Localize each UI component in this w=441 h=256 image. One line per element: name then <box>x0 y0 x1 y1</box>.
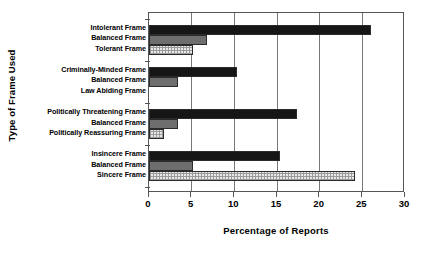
category-label: Balanced Frame <box>91 119 146 127</box>
category-label: Intolerant Frame <box>90 24 146 32</box>
gridline <box>234 13 235 191</box>
bar <box>149 25 371 35</box>
gridline <box>362 13 363 191</box>
x-axis-tick <box>190 192 191 197</box>
y-axis-tick <box>145 61 150 62</box>
category-label: Politically Threatening Frame <box>47 108 146 116</box>
x-axis-tick-label: 5 <box>176 198 206 209</box>
x-axis-tick-label: 0 <box>133 198 163 209</box>
bar <box>149 171 355 181</box>
bar <box>149 45 193 55</box>
y-axis-tick <box>145 103 150 104</box>
bar <box>149 151 280 161</box>
bar <box>149 129 164 139</box>
bar <box>149 161 193 171</box>
y-axis-tick <box>145 187 150 188</box>
chart-figure: Type of Frame Used Intolerant FrameBalan… <box>0 0 441 256</box>
x-axis-tick-label: 10 <box>218 198 248 209</box>
bar <box>149 67 237 77</box>
category-label: Law Abiding Frame <box>81 87 146 95</box>
y-axis-tick <box>145 19 150 20</box>
x-axis-tick <box>276 192 277 197</box>
x-axis-tick <box>404 192 405 197</box>
category-label: Sincere Frame <box>97 171 146 179</box>
y-axis-title: Type of Frame Used <box>0 0 24 190</box>
x-axis-tick <box>233 192 234 197</box>
category-label: Tolerant Frame <box>95 45 146 53</box>
gridline <box>277 13 278 191</box>
y-axis-tick <box>145 145 150 146</box>
x-axis-tick <box>148 192 149 197</box>
x-axis-tick <box>318 192 319 197</box>
category-axis-labels: Intolerant FrameBalanced FrameTolerant F… <box>24 12 148 192</box>
bar <box>149 109 297 119</box>
bar <box>149 77 178 87</box>
gridline <box>319 13 320 191</box>
category-label: Balanced Frame <box>91 34 146 42</box>
x-axis-ticks: 051015202530 <box>148 192 404 222</box>
x-axis-tick-label: 20 <box>304 198 334 209</box>
x-axis-title: Percentage of Reports <box>148 225 404 236</box>
category-label: Politically Reassuring Frame <box>49 129 146 137</box>
plot-area <box>148 12 404 192</box>
category-label: Criminally-Minded Frame <box>61 66 146 74</box>
category-label: Balanced Frame <box>91 161 146 169</box>
x-axis-tick <box>361 192 362 197</box>
x-axis-tick-label: 25 <box>346 198 376 209</box>
y-axis-title-text: Type of Frame Used <box>7 49 18 141</box>
category-label: Insincere Frame <box>92 150 146 158</box>
x-axis-tick-label: 15 <box>261 198 291 209</box>
bar <box>149 119 178 129</box>
category-label: Balanced Frame <box>91 76 146 84</box>
bar <box>149 35 207 45</box>
x-axis-tick-label: 30 <box>389 198 419 209</box>
